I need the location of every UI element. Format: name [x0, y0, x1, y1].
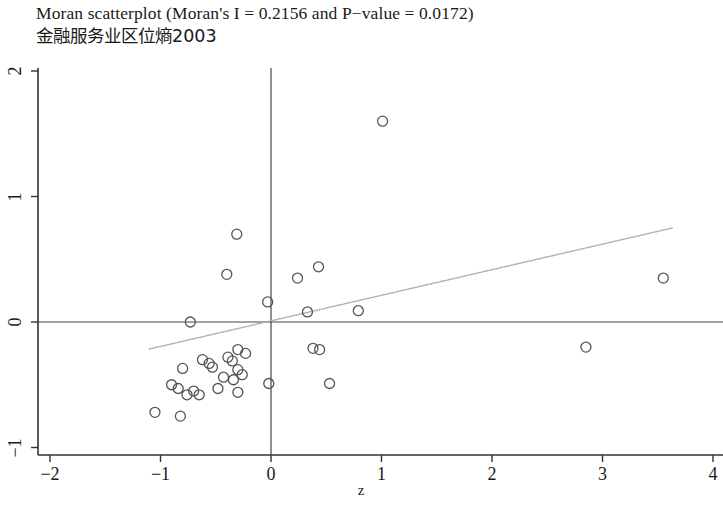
regression-fit-line: [149, 228, 672, 349]
x-tick-label: −2: [40, 464, 59, 485]
x-axis-label: z: [358, 482, 365, 499]
scatter-point: [232, 229, 242, 239]
plot-area: −2−101234 −1012 z: [0, 0, 723, 510]
x-tick-label: 2: [488, 464, 497, 485]
scatter-point: [178, 363, 188, 373]
scatter-point: [228, 375, 238, 385]
scatter-points: [150, 116, 668, 421]
scatter-point: [218, 372, 228, 382]
y-tick-label: 0: [5, 309, 26, 335]
scatter-point: [175, 411, 185, 421]
scatter-point: [222, 269, 232, 279]
fit-line: [149, 228, 672, 349]
scatter-point: [325, 378, 335, 388]
y-tick-label: −1: [5, 435, 26, 461]
plot-canvas: [0, 0, 723, 510]
y-tick-label: 1: [5, 184, 26, 210]
scatter-point: [150, 407, 160, 417]
scatter-point: [293, 273, 303, 283]
y-tick-label: 2: [5, 58, 26, 84]
moran-scatterplot-figure: Moran scatterplot (Moran's I = 0.2156 an…: [0, 0, 723, 510]
scatter-point: [315, 345, 325, 355]
x-tick-label: 3: [598, 464, 607, 485]
scatter-point: [658, 273, 668, 283]
scatter-point: [581, 342, 591, 352]
x-tick-label: 4: [709, 464, 718, 485]
scatter-point: [241, 348, 251, 358]
scatter-point: [308, 343, 318, 353]
x-tick-label: −1: [151, 464, 170, 485]
scatter-point: [314, 262, 324, 272]
scatter-point: [353, 306, 363, 316]
scatter-point: [378, 116, 388, 126]
scatter-point: [233, 387, 243, 397]
x-tick-label: 0: [267, 464, 276, 485]
x-tick-label: 1: [377, 464, 386, 485]
scatter-point: [213, 384, 223, 394]
scatter-point: [264, 378, 274, 388]
scatter-point: [233, 345, 243, 355]
tick-marks: [31, 71, 713, 462]
